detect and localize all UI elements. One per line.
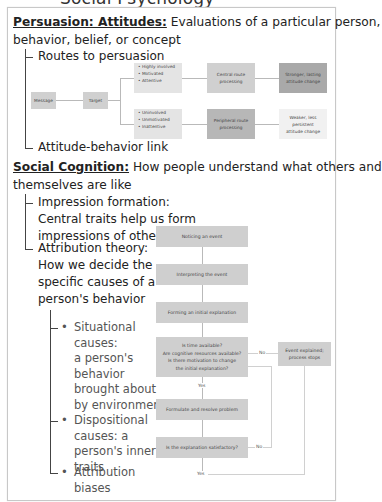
decision-line: Are cognitive resources available? [163,350,242,358]
impression-line: Impression formation: [38,194,196,211]
attribution-line: person's behavior [38,291,155,308]
flow-forming-explanation: Forming an initial explanation [156,302,248,323]
item-line: by environment [74,398,165,414]
flow-interpreting-event: Interpreting the event [156,264,248,285]
end-line: Event explained; [285,347,324,355]
box-text: Peripheral route [214,117,248,124]
flow-explanation-satisfactory: Is the explanation satisfactory? [156,437,248,458]
bullet-text: • Uninvolved [138,109,166,116]
bullet-text: • Inattentive [138,123,165,130]
item-line: causes: [74,336,165,352]
end-line: process stops [289,354,320,362]
item-line: causes: a [74,429,156,445]
attribution-biases: Attribution biases [74,465,135,496]
bullet-text: • Highly involved [138,63,175,70]
item-line: brought about [74,382,165,398]
tree-branch [25,203,33,204]
decision-line: Is there motivation to change [168,357,236,365]
item-line: biases [74,481,135,497]
flow-formulate-resolve: Formulate and resolve problem [156,399,248,420]
item-line: Situational [74,320,165,336]
peripheral-route-box: Peripheral route processing [207,109,255,139]
item-line: person's inner [74,444,156,460]
tree-branch [50,328,58,329]
box-text: Stronger, lasting [285,71,321,78]
flow-noticing-event: Noticing an event [156,226,248,247]
box-text: Weaker, less [289,114,316,121]
box-text: processing [219,78,242,85]
box-text: attitude change [286,128,320,135]
bullet-text: • Attentive [138,77,162,84]
notes-card: Persuasion: Attitudes: Evaluations of a … [7,7,336,501]
connector [202,420,203,437]
item-line: Dispositional [74,413,156,429]
attribution-tree-line [50,310,51,473]
social-cognition-heading: Social Cognition: How people understand … [13,159,382,176]
bullet-text: • Unmotivated [138,116,170,123]
decision-line: Is time available? [182,342,222,350]
item-line: a person's [74,351,165,367]
attribution-line: specific causes of a [38,274,155,291]
bullet-dot: • [61,413,68,429]
decision-line: the initial explanation? [176,365,229,373]
connector [202,247,203,264]
bullet-dot: • [61,465,68,481]
flow-event-explained: Event explained; process stops [278,342,331,366]
yes-label: Yes [197,471,204,476]
bullet-dot: • [61,320,68,336]
central-route-box: Central route processing [207,63,255,93]
tree-branch [25,57,33,58]
situational-causes: Situational causes: a person's behavior … [74,320,165,413]
connector [120,78,134,79]
flow-decision-resources: Is time available? Are cognitive resourc… [156,337,248,377]
box-text: Central route [217,71,245,78]
attitude-behavior-link: Attitude-behavior link [38,139,168,156]
connector [304,366,305,475]
yes-label: Yes [198,383,205,388]
connector [182,78,207,79]
message-box: Message [31,92,56,109]
persuasion-heading-line2: behavior, belief, or concept [13,32,181,49]
box-text: attitude change [286,78,320,85]
persuasion-heading-desc: Evaluations of a particular person, [167,15,381,29]
target-box: Target [83,92,108,109]
connector [182,124,207,125]
connector [208,474,304,475]
attribution-line: Attribution theory: [38,240,155,257]
bullet-text: • Motivated [138,70,163,77]
connector [248,366,271,367]
connector [202,285,203,302]
box-text: persistent [292,121,314,128]
connector [202,458,203,471]
no-label: No [258,350,266,355]
high-involvement-box: • Highly involved • Motivated • Attentiv… [134,63,182,93]
stronger-change-box: Stronger, lasting attitude change [279,63,327,93]
connector [255,78,279,79]
connector [120,124,134,125]
connector [255,124,279,125]
low-involvement-box: • Uninvolved • Unmotivated • Inattentive [134,109,182,139]
no-label: No [255,444,263,449]
connector [271,366,272,448]
attribution-theory: Attribution theory: How we decide the sp… [38,240,155,308]
item-line: behavior [74,367,165,383]
persuasion-tree-line [25,49,26,148]
weaker-change-box: Weaker, less persistent attitude change [279,109,327,139]
box-text: processing [219,124,242,131]
social-cognition-heading-desc: How people understand what others and [129,160,382,174]
tree-branch [25,249,33,250]
persuasion-heading-title: Persuasion: Attitudes: [13,15,167,29]
tree-branch [50,473,58,474]
connector [120,78,121,124]
item-line: Attribution [74,465,135,481]
connector [56,100,83,101]
persuasion-heading: Persuasion: Attitudes: Evaluations of a … [13,14,380,31]
connector [202,323,203,337]
social-cognition-heading-title: Social Cognition: [13,160,129,174]
connector [108,100,120,101]
attribution-line: How we decide the [38,257,155,274]
tree-branch [25,148,33,149]
social-cognition-heading-line2: themselves are like [13,177,132,194]
connector [202,377,203,399]
tree-branch [50,421,58,422]
